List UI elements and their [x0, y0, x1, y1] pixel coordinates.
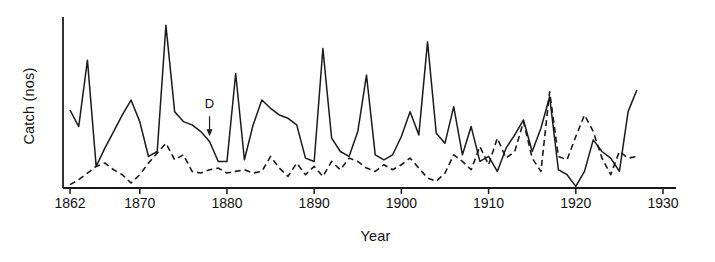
- x-axis-label-text: Year: [360, 228, 390, 244]
- dashed-series-line: [70, 92, 637, 185]
- solid-series-line: [70, 25, 637, 186]
- annotation-arrow-icon: [207, 116, 213, 136]
- x-axis-tick-label-1862: 1862: [54, 195, 85, 211]
- annotation-label-d: D: [205, 96, 214, 111]
- x-axis-tick-label-1890: 1890: [299, 195, 330, 211]
- x-axis-label: Year: [0, 228, 715, 244]
- annotation-arrow-head: [207, 129, 213, 136]
- chart-figure: Catch (nos) 1862187018801890190019101920…: [0, 0, 715, 262]
- x-axis-tick-label-1870: 1870: [124, 195, 155, 211]
- x-axis-tick-label-1930: 1930: [647, 195, 678, 211]
- x-axis-tick-label-1880: 1880: [211, 195, 242, 211]
- x-axis-tick-label-1900: 1900: [386, 195, 417, 211]
- x-axis-tick-label-1920: 1920: [560, 195, 591, 211]
- chart-plot-area: [0, 0, 715, 262]
- x-axis-tick-label-1910: 1910: [473, 195, 504, 211]
